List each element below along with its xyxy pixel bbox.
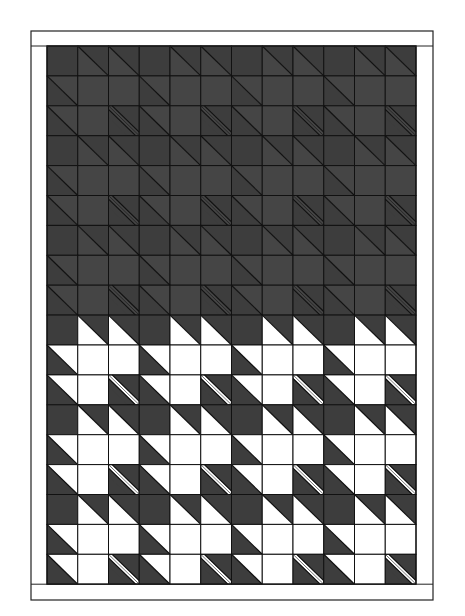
quilt-cell-w [170,435,201,465]
quilt-cell-d [47,46,78,76]
quilt-cell-s [385,375,416,405]
quilt-cell-w [78,465,109,495]
quilt-cell-w [170,106,201,136]
quilt-cell-lw [355,405,386,435]
quilt-cell-uw [324,554,355,584]
quilt-cell-s [293,196,324,226]
quilt-cell-lw [109,495,140,525]
quilt-cell-uw [324,524,355,554]
quilt-cell-uw [47,255,78,285]
quilt-cell-w [355,465,386,495]
quilt-cell-w [170,524,201,554]
quilt-cell-w [355,285,386,315]
quilt-cell-uw [232,465,263,495]
quilt-cell-lw [109,315,140,345]
quilt-cell-uw [324,106,355,136]
quilt-cell-s [109,285,140,315]
quilt-cell-w [201,166,232,196]
quilt-cell-w [170,285,201,315]
quilt-cell-lw [201,225,232,255]
quilt-cell-lw [78,405,109,435]
quilt-cell-lw [201,495,232,525]
quilt-cell-d [139,136,170,166]
quilt-cell-s [385,196,416,226]
quilt-cell-lw [170,225,201,255]
quilt-cell-w [78,524,109,554]
quilt-cell-w [170,76,201,106]
quilt-cell-w [385,255,416,285]
quilt-cell-w [109,76,140,106]
quilt-cell-uw [47,196,78,226]
quilt-cell-lw [385,225,416,255]
quilt-cell-s [201,465,232,495]
quilt-cell-w [201,76,232,106]
quilt-cell-d [324,495,355,525]
quilt-cell-uw [139,166,170,196]
quilt-cell-lw [355,225,386,255]
quilt-cell-w [109,166,140,196]
quilt-cell-lw [109,225,140,255]
quilt-cell-s [201,285,232,315]
quilt-cell-uw [324,285,355,315]
quilt-cell-d [47,315,78,345]
quilt-cell-w [262,345,293,375]
quilt-cell-s [201,196,232,226]
quilt-cell-w [355,255,386,285]
quilt-cell-w [355,524,386,554]
quilt-cell-d [232,46,263,76]
quilt-cell-uw [232,435,263,465]
quilt-cell-lw [262,405,293,435]
quilt-cell-uw [47,524,78,554]
quilt-cell-s [385,554,416,584]
quilt-cell-uw [139,375,170,405]
quilt-cell-d [139,405,170,435]
quilt-cell-uw [324,255,355,285]
quilt-cell-w [201,345,232,375]
quilt-cell-uw [232,106,263,136]
quilt-cell-s [385,465,416,495]
quilt-cell-s [109,465,140,495]
quilt-cell-uw [139,554,170,584]
quilt-cell-w [355,196,386,226]
quilt-cell-s [201,554,232,584]
quilt-cell-w [293,166,324,196]
quilt-cell-w [109,255,140,285]
quilt-cell-lw [201,136,232,166]
quilt-diagram [0,0,465,616]
quilt-cell-s [109,375,140,405]
quilt-cell-lw [262,46,293,76]
quilt-cell-lw [385,495,416,525]
quilt-cell-w [170,166,201,196]
quilt-cell-uw [47,554,78,584]
quilt-cell-uw [47,285,78,315]
quilt-cell-lw [262,495,293,525]
quilt-cell-w [293,435,324,465]
quilt-cell-lw [355,46,386,76]
quilt-cell-lw [78,315,109,345]
quilt-cell-d [232,136,263,166]
quilt-cell-w [293,345,324,375]
quilt-cell-w [262,255,293,285]
quilt-cell-uw [232,375,263,405]
quilt-cell-lw [293,495,324,525]
quilt-cell-w [385,76,416,106]
quilt-cell-uw [47,465,78,495]
quilt-cell-s [293,375,324,405]
quilt-cell-lw [78,46,109,76]
quilt-cell-lw [355,315,386,345]
quilt-cell-w [170,345,201,375]
quilt-cell-lw [355,495,386,525]
quilt-cell-lw [109,136,140,166]
quilt-cell-uw [47,345,78,375]
quilt-cell-d [324,315,355,345]
quilt-cell-lw [170,315,201,345]
quilt-cell-w [262,375,293,405]
quilt-cell-w [262,435,293,465]
quilt-cell-uw [139,435,170,465]
quilt-cell-d [232,405,263,435]
quilt-cell-w [262,106,293,136]
quilt-cell-uw [139,524,170,554]
quilt-cell-w [109,345,140,375]
quilt-cell-w [170,255,201,285]
quilt-cell-d [47,225,78,255]
